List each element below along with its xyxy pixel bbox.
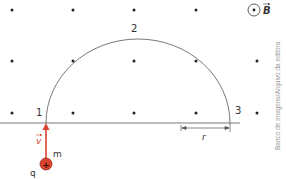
charge-label: q [30, 168, 36, 178]
radius-label: r [202, 132, 207, 142]
point-label-1: 1 [36, 107, 42, 118]
mass-label: m [53, 149, 62, 159]
velocity-label: v [36, 134, 42, 146]
velocity-arrow [43, 123, 50, 160]
charged-particle: + [40, 158, 52, 170]
magnetic-field-indicator: B [248, 3, 271, 16]
radius-dimension [181, 123, 230, 132]
field-symbol: B [263, 5, 271, 16]
point-label-2: 2 [131, 23, 137, 34]
trajectory-arc [46, 39, 230, 123]
svg-text:v: v [36, 136, 42, 146]
diagram-canvas: 1 2 3 r v m + q B Banco de imagens/Arqui… [0, 0, 286, 179]
point-label-3: 3 [235, 105, 241, 116]
charge-sign: + [42, 160, 50, 170]
image-credit: Banco de imagens/Arquivo da editora [274, 41, 282, 150]
